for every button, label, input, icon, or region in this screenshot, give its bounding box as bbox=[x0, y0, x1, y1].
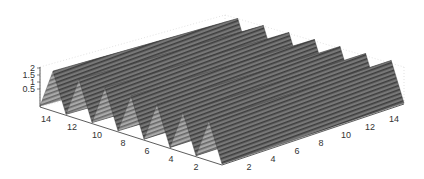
surface-plot: 2 1.5 1 0.5 14 12 10 8 6 4 2 2 4 6 8 10 … bbox=[0, 0, 424, 179]
x-tick-label: 12 bbox=[365, 122, 375, 132]
y-tick-label: 2 bbox=[193, 162, 198, 172]
y-tick-label: 6 bbox=[144, 146, 149, 156]
x-tick-label: 2 bbox=[246, 162, 251, 172]
x-tick-label: 10 bbox=[341, 130, 351, 140]
y-tick-label: 4 bbox=[168, 154, 173, 164]
x-tick-label: 14 bbox=[389, 114, 399, 124]
y-tick-label: 8 bbox=[120, 138, 125, 148]
y-tick-label: 14 bbox=[41, 114, 51, 124]
z-tick-labels: 2 1.5 1 0.5 bbox=[22, 63, 35, 94]
y-tick-label: 10 bbox=[92, 130, 102, 140]
surface-mesh bbox=[40, 19, 404, 165]
y-tick-label: 12 bbox=[67, 122, 77, 132]
z-ticks bbox=[37, 68, 40, 89]
x-tick-label: 4 bbox=[270, 154, 275, 164]
z-tick-label: 0.5 bbox=[22, 84, 35, 94]
x-tick-label: 6 bbox=[294, 146, 299, 156]
x-tick-label: 8 bbox=[318, 138, 323, 148]
